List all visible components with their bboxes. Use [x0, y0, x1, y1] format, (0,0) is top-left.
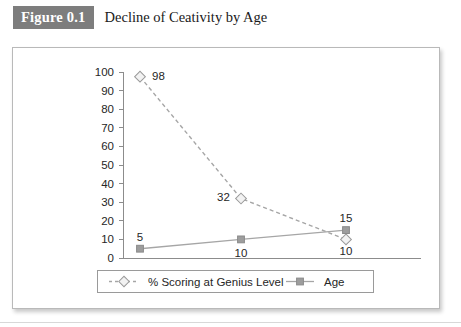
data-point-marker — [137, 245, 144, 252]
chart-panel: 100 90 80 70 60 50 40 30 20 10 0 98 32 — [12, 47, 440, 309]
data-point-marker — [341, 234, 352, 245]
y-tick-label: 100 — [95, 66, 114, 78]
page-divider — [0, 322, 461, 323]
y-tick-label: 70 — [101, 122, 114, 134]
chart-legend: % Scoring at Genius Level Age — [98, 271, 374, 293]
data-label-genius: 98 — [152, 70, 165, 82]
y-tick-label: 90 — [101, 85, 114, 97]
y-tick-label: 10 — [101, 233, 114, 245]
y-tick-label: 60 — [101, 140, 114, 152]
data-label-genius: 10 — [340, 245, 353, 257]
y-tick-label: 80 — [101, 103, 114, 115]
y-tick-label: 40 — [101, 178, 114, 190]
data-point-marker — [238, 236, 245, 243]
data-point-marker — [236, 193, 247, 204]
data-label-age: 15 — [340, 212, 353, 224]
data-label-age: 5 — [137, 231, 143, 243]
y-tick-label: 50 — [101, 159, 114, 171]
figure-title: Decline of Ceativity by Age — [105, 9, 268, 26]
data-label-age: 10 — [235, 247, 248, 259]
y-tick-label: 0 — [108, 252, 114, 264]
data-label-genius: 32 — [217, 191, 230, 203]
figure-number-badge: Figure 0.1 — [13, 6, 94, 30]
data-point-marker — [135, 71, 146, 82]
series-age: 5 10 15 — [137, 212, 353, 259]
y-tick-label: 30 — [101, 196, 114, 208]
figure-header: Figure 0.1 Decline of Ceativity by Age — [13, 7, 267, 28]
legend-label-age: Age — [324, 276, 344, 288]
data-point-marker — [343, 227, 350, 234]
y-tick-label: 20 — [101, 215, 114, 227]
y-axis — [119, 72, 124, 258]
series-genius-level: 98 32 10 — [135, 70, 353, 257]
legend-label-genius-level: % Scoring at Genius Level — [148, 276, 284, 288]
square-marker-icon — [297, 278, 304, 285]
line-chart: 100 90 80 70 60 50 40 30 20 10 0 98 32 — [13, 48, 441, 310]
